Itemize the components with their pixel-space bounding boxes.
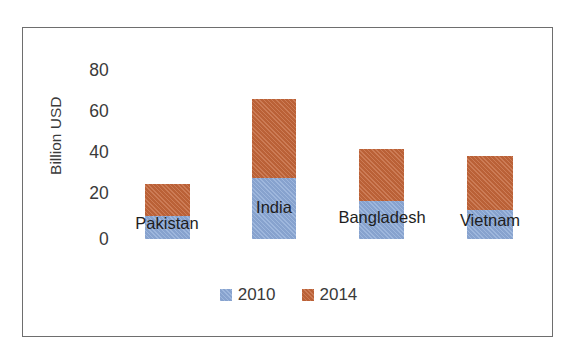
bar-segment-bangladesh-2014[interactable]: [359, 149, 404, 201]
chart-frame: Billion USD 80 60 40 20 0: [22, 27, 553, 337]
orange-square-swatch: [302, 289, 314, 301]
legend-item-2014[interactable]: 2014: [302, 286, 358, 303]
bar-segment-india-2014[interactable]: [252, 99, 296, 178]
chart-legend: 2010 2014: [23, 286, 554, 303]
legend-label-2010: 2010: [238, 286, 276, 303]
blue-square-swatch: [220, 289, 232, 301]
bar-group-india[interactable]: [252, 99, 296, 239]
bar-segment-pakistan-2014[interactable]: [145, 184, 190, 216]
plot-area: Billion USD 80 60 40 20 0: [23, 28, 554, 338]
legend-item-2010[interactable]: 2010: [220, 286, 276, 303]
category-label-vietnam: Vietnam: [438, 212, 542, 229]
category-label-india: India: [226, 199, 322, 216]
category-label-bangladesh: Bangladesh: [320, 209, 444, 226]
category-label-pakistan: Pakistan: [119, 215, 215, 232]
bar-segment-vietnam-2014[interactable]: [467, 156, 513, 210]
legend-label-2014: 2014: [320, 286, 358, 303]
